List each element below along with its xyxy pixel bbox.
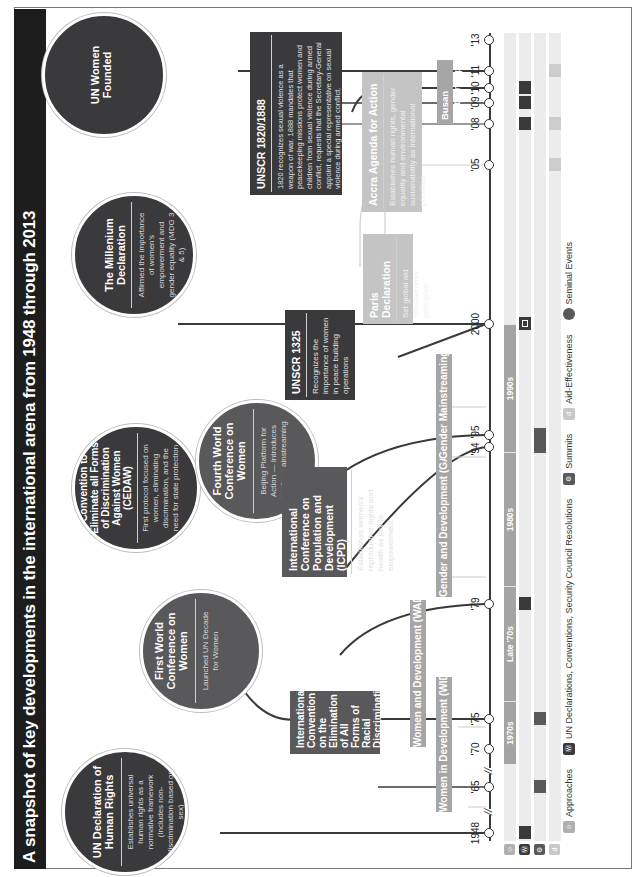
timeline-node-1970[interactable] xyxy=(484,744,494,754)
marker-1994-icpd xyxy=(534,440,546,453)
timeline-node-2008[interactable] xyxy=(484,119,494,129)
row-aid-effectiveness xyxy=(549,33,561,841)
row-un-declarations xyxy=(519,33,531,841)
accra-agenda-box: Accra Agenda for Action Establishes huma… xyxy=(362,72,422,212)
marker-1948-declaration xyxy=(519,826,531,839)
marker-1975-summit xyxy=(534,712,546,725)
timeline-node-1979[interactable] xyxy=(484,599,494,609)
box-title: International Convention on the Eliminat… xyxy=(290,691,387,754)
approach-gender-mainstreaming: Gender Mainstreaming xyxy=(436,354,452,459)
approach-wid: Women in Development (WID) xyxy=(436,677,452,812)
legend-item-un-declarations: Ⓦ UN Declarations, Conventions, Security… xyxy=(563,499,575,755)
box-desc: 1820 recognizes sexual violence as a wea… xyxy=(272,32,347,195)
seminal-event-first-world-conference: First World Conference on Women Launched… xyxy=(140,590,262,712)
legend-item-summits: ⚙ Summits xyxy=(563,434,575,485)
box-desc: Establishes human rights, gender equalit… xyxy=(384,72,432,212)
legend-label: Summits xyxy=(564,434,574,469)
event-title: Convention to Eliminate all Forms of Dis… xyxy=(75,427,133,549)
box-desc: Establishes women's reproductive rights … xyxy=(352,467,400,577)
seminal-events-icon xyxy=(563,308,575,320)
year-label: 1948 xyxy=(470,818,481,848)
timeline-node-1994[interactable] xyxy=(484,442,494,452)
approach-wad: Women and Development (WAD) xyxy=(410,600,426,747)
box-title: Busan Partnership xyxy=(437,60,465,124)
axis-break-mark: // xyxy=(482,768,494,774)
era-1980s: 1980s xyxy=(504,452,516,586)
event-title: UN Women Founded xyxy=(45,16,113,134)
approach-gad: Gender and Development (GAD) xyxy=(436,457,452,597)
marker-2005-paris xyxy=(549,158,561,171)
legend-item-approaches: ☺ Approaches xyxy=(563,769,575,833)
event-title: First World Conference on Women xyxy=(143,593,189,709)
year-label: '13 xyxy=(470,25,481,55)
legend-label: UN Declarations, Conventions, Security C… xyxy=(564,499,574,739)
busan-partnership-box: Busan Partnership xyxy=(437,60,453,124)
timeline-node-1965[interactable] xyxy=(484,782,494,792)
approaches-icon: ☺ xyxy=(504,844,515,855)
seminal-event-udhr: UN Declaration of Human Rights Establish… xyxy=(62,749,188,875)
event-title: The Millenium Declaration xyxy=(75,196,127,314)
marker-1979-cedaw xyxy=(519,597,531,610)
summits-icon: ⚙ xyxy=(563,473,575,485)
marker-2008-unscr xyxy=(519,117,531,130)
marker-2009-unscr xyxy=(519,96,531,109)
year-label: '79 xyxy=(470,589,481,619)
approaches-icon: ☺ xyxy=(563,821,575,833)
paris-declaration-box: Paris Declaration Set global aid effecti… xyxy=(363,234,413,324)
marker-2008-accra xyxy=(549,117,561,130)
legend: ☺ Approaches Ⓦ UN Declarations, Conventi… xyxy=(563,234,575,833)
year-label: '95 xyxy=(470,417,481,447)
event-desc: Establishes universal human rights as a … xyxy=(126,752,186,872)
box-title: UNSCR 1325 xyxy=(285,310,306,400)
year-label: '70 xyxy=(470,734,481,764)
timeline-node-2013[interactable] xyxy=(484,35,494,45)
legend-item-aid-effectiveness: d Aid-Effectiveness xyxy=(563,334,575,419)
marker-1995-beijing xyxy=(534,428,546,441)
legend-label: Approaches xyxy=(564,769,574,817)
timeline-node-1975[interactable] xyxy=(484,714,494,724)
box-title: Accra Agenda for Action xyxy=(362,72,383,212)
event-title: UN Declaration of Human Rights xyxy=(65,752,115,872)
timeline-node-2011[interactable] xyxy=(484,66,494,76)
event-desc: Launched UN Decade for Women xyxy=(201,593,221,709)
un-declarations-icon: Ⓦ xyxy=(519,844,530,855)
unscr-1820-1888-box: UNSCR 1820/1888 1820 recognizes sexual v… xyxy=(250,32,342,195)
year-label: '05 xyxy=(470,150,481,180)
marker-2011-busan xyxy=(549,64,561,77)
marker-2010-unscr xyxy=(519,81,531,94)
box-desc: Set global aid effectiveness principles xyxy=(397,234,435,324)
timeline-node-2005[interactable] xyxy=(484,160,494,170)
icpd-box: International Conference on Population a… xyxy=(282,467,347,577)
legend-item-seminal-events: Seminal Events xyxy=(563,242,575,321)
timeline-node-1995[interactable] xyxy=(484,430,494,440)
box-title: International Conference on Population a… xyxy=(282,467,351,577)
seminal-event-millennium-declaration: The Millenium Declaration Affirmed the i… xyxy=(72,193,196,317)
event-desc: First protocol focused on women, elimina… xyxy=(141,427,181,549)
box-desc: Recognizes the importance of women in pe… xyxy=(307,310,355,400)
marker-1965-convention xyxy=(534,780,546,793)
event-title: Fourth World Conference on Women xyxy=(199,403,247,519)
unscr-1325-box: UNSCR 1325 Recognizes the importance of … xyxy=(285,310,355,400)
aid-effectiveness-icon: d xyxy=(549,844,560,855)
era-late-70s: Late '70s xyxy=(504,586,516,701)
timeline-node-2000[interactable] xyxy=(484,319,494,329)
seminal-event-un-women-founded: UN Women Founded xyxy=(42,13,166,137)
un-declarations-icon: Ⓦ xyxy=(563,743,575,755)
seminal-event-cedaw: Convention to Eliminate all Forms of Dis… xyxy=(72,424,200,552)
marker-2000-millennium xyxy=(519,317,531,330)
year-label: '65 xyxy=(470,772,481,802)
era-1990s: 1990s xyxy=(504,324,516,452)
timeline-node-1948[interactable] xyxy=(484,828,494,838)
axis-break-mark: // xyxy=(482,809,494,815)
summits-icon: ⚙ xyxy=(534,844,545,855)
timeline-node-2010[interactable] xyxy=(484,83,494,93)
year-label: '11 xyxy=(470,56,481,86)
racial-discrimination-convention-box: International Convention on the Eliminat… xyxy=(290,691,380,754)
infographic-canvas: A snapshot of key developments in the in… xyxy=(0,0,638,877)
legend-label: Seminal Events xyxy=(564,242,574,305)
box-title: Paris Declaration xyxy=(363,234,396,324)
year-label: '75 xyxy=(470,704,481,734)
timeline-node-2009[interactable] xyxy=(484,98,494,108)
legend-label: Aid-Effectiveness xyxy=(564,334,574,403)
year-label: 2000 xyxy=(470,309,481,339)
